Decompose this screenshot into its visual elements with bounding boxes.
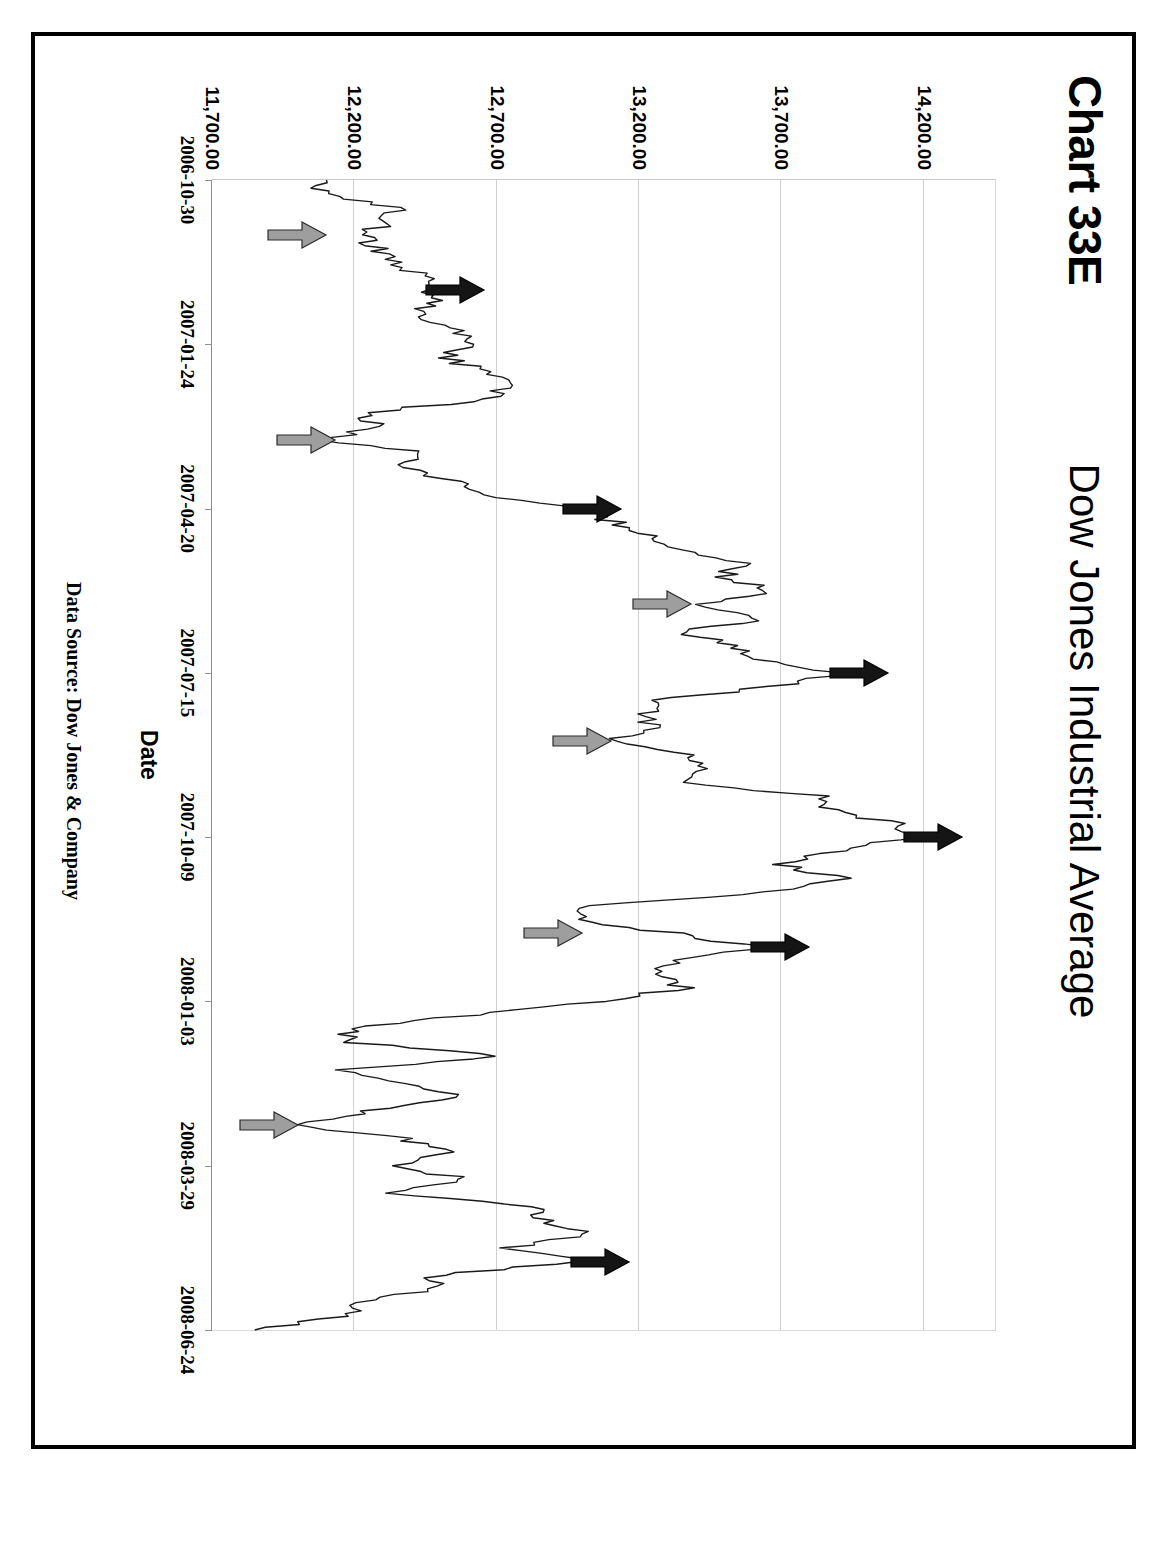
x-axis-tick xyxy=(205,1165,212,1166)
peak-marker-4-arrow-icon xyxy=(904,822,964,852)
x-axis-tick xyxy=(205,508,212,509)
plot-block: 14,200.0013,700.0013,200.0012,700.0012,2… xyxy=(212,179,996,1331)
x-tick-label: 2006-10-30 xyxy=(176,135,198,224)
x-tick-label: 2008-01-03 xyxy=(176,957,198,1046)
trough-marker-6-arrow-icon xyxy=(239,1109,299,1139)
x-axis-tick xyxy=(205,672,212,673)
peak-marker-2-arrow-icon xyxy=(562,493,622,523)
y-tick-label: 14,200.00 xyxy=(912,85,934,170)
y-tick-label: 12,700.00 xyxy=(485,85,507,170)
trough-marker-4-arrow-icon xyxy=(552,726,612,756)
x-tick-label: 2007-04-20 xyxy=(176,464,198,553)
x-tick-label: 2008-03-29 xyxy=(176,1121,198,1210)
y-tick-label: 13,200.00 xyxy=(628,85,650,170)
peak-marker-5-arrow-icon xyxy=(750,931,810,961)
x-tick-label: 2007-07-15 xyxy=(176,628,198,717)
y-tick-label: 13,700.00 xyxy=(770,85,792,170)
y-tick-label: 11,700.00 xyxy=(201,86,223,169)
y-tick-label: 12,200.00 xyxy=(343,85,365,170)
trough-marker-3-arrow-icon xyxy=(632,589,692,619)
trough-marker-2-arrow-icon xyxy=(276,425,336,455)
x-axis-tick xyxy=(205,837,212,838)
x-tick-label: 2007-01-24 xyxy=(176,299,198,388)
peak-marker-1-arrow-icon xyxy=(426,274,486,304)
data-source-note: Data Source: Dow Jones & Company xyxy=(62,71,85,1411)
plot-area: 14,200.0013,700.0013,200.0012,700.0012,2… xyxy=(212,179,996,1331)
x-axis-title: Date xyxy=(135,179,162,1331)
x-tick-label: 2008-06-24 xyxy=(176,1285,198,1374)
peak-marker-6-arrow-icon xyxy=(571,1246,631,1276)
x-axis-tick xyxy=(205,344,212,345)
trough-marker-1-arrow-icon xyxy=(268,219,328,249)
x-axis-tick xyxy=(205,180,212,181)
x-tick-label: 2007-10-09 xyxy=(176,792,198,881)
x-axis-tick xyxy=(205,1001,212,1002)
chart-stage: Chart 33E Dow Jones Industrial Average D… xyxy=(54,71,1114,1411)
figure-frame: Chart 33E Dow Jones Industrial Average D… xyxy=(31,32,1136,1449)
x-axis-tick xyxy=(205,1330,212,1331)
peak-marker-3-arrow-icon xyxy=(830,657,890,687)
chart-title: Dow Jones Industrial Average xyxy=(1060,71,1108,1411)
trough-marker-5-arrow-icon xyxy=(524,917,584,947)
